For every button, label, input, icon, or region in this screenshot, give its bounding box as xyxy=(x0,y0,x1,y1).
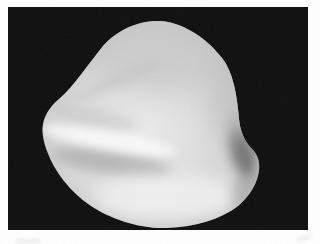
bottom-highlight xyxy=(95,174,245,220)
figure-page xyxy=(0,0,320,244)
margin-smudge-right xyxy=(297,236,311,240)
margin-smudge-left xyxy=(16,240,40,242)
blob-render-figure xyxy=(0,0,320,244)
